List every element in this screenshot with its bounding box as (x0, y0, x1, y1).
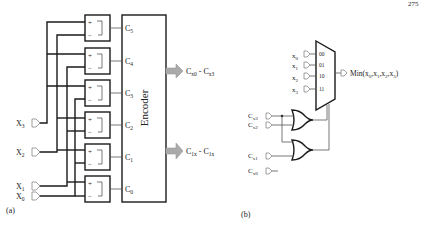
svg-text:x0: x0 (292, 52, 299, 61)
svg-text:−: − (88, 161, 92, 169)
page-number: 275 (408, 0, 419, 8)
caption-a: (a) (6, 206, 15, 215)
svg-text:X0: X0 (16, 192, 25, 202)
diagram-canvas: 275 Encoder + − C5 + − C4 + − (0, 0, 428, 232)
input-wiring (39, 22, 85, 196)
encoder-label: Encoder (138, 89, 150, 126)
svg-text:+: + (88, 148, 92, 156)
svg-text:C1x - C1x: C1x - C1x (186, 147, 215, 157)
or-gate-1 (292, 110, 313, 130)
svg-text:Cx0: Cx0 (248, 167, 258, 176)
panel-b: x0 00 x1 01 x2 10 x3 11 Min(x0,x1,x2 (241, 41, 399, 219)
svg-text:Min(x0,x1,x2,x3): Min(x0,x1,x2,x3) (350, 69, 399, 79)
port-icon (266, 122, 272, 128)
port-icon (32, 182, 40, 190)
svg-text:11: 11 (319, 86, 325, 92)
svg-text:+: + (88, 84, 92, 92)
svg-text:X1: X1 (16, 182, 25, 192)
svg-text:00: 00 (319, 51, 325, 57)
svg-text:−: − (88, 97, 92, 105)
control-cx1: Cx1 (248, 152, 294, 161)
svg-text:−: − (88, 32, 92, 40)
panel-a: Encoder + − C5 + − C4 + − C3 (6, 15, 215, 215)
svg-text:+: + (88, 19, 92, 27)
input-x1: X1 (16, 182, 40, 192)
caption-b: (b) (241, 210, 251, 219)
output-bus-x: Cx0 - Cx3 (166, 64, 215, 78)
bus-arrow-icon (166, 143, 183, 159)
port-icon (304, 51, 310, 57)
control-cx0: Cx0 (248, 167, 278, 176)
input-x3: X3 (16, 119, 40, 129)
svg-text:+: + (88, 116, 92, 124)
port-icon (304, 62, 310, 68)
port-icon (341, 70, 347, 76)
mux-output: Min(x0,x1,x2,x3) (335, 69, 399, 79)
svg-text:x3: x3 (292, 86, 299, 95)
svg-text:x2: x2 (292, 74, 299, 83)
svg-text:X2: X2 (16, 148, 25, 158)
svg-text:Cx2: Cx2 (248, 121, 258, 130)
svg-text:Cx0 - Cx3: Cx0 - Cx3 (186, 67, 215, 77)
port-icon (266, 153, 272, 159)
svg-text:Cx1: Cx1 (248, 152, 258, 161)
svg-text:−: − (88, 193, 92, 201)
port-icon (304, 86, 310, 92)
svg-text:X3: X3 (16, 119, 25, 129)
svg-text:+: + (88, 180, 92, 188)
port-icon (32, 192, 40, 200)
input-x0: X0 (16, 192, 40, 202)
bus-arrow-icon (166, 64, 183, 78)
port-icon (304, 73, 310, 79)
output-bus-1: C1x - C1x (166, 143, 215, 159)
control-cx2: Cx2 (248, 121, 294, 130)
port-icon (32, 148, 40, 156)
input-x2: X2 (16, 148, 40, 158)
svg-text:10: 10 (319, 73, 325, 79)
port-icon (266, 113, 272, 119)
svg-text:x1: x1 (292, 62, 299, 71)
svg-text:+: + (88, 52, 92, 60)
svg-text:−: − (88, 129, 92, 137)
svg-text:01: 01 (319, 62, 325, 68)
or-gate-2 (292, 140, 313, 160)
port-icon (266, 168, 272, 174)
svg-text:−: − (88, 65, 92, 73)
port-icon (32, 119, 40, 127)
svg-text:Cx3: Cx3 (248, 112, 258, 121)
